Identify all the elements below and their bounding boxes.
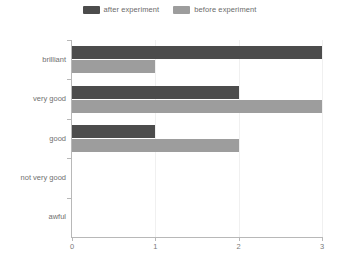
y-axis-label-good: good bbox=[49, 135, 66, 143]
bar-brilliant-before-experiment bbox=[72, 60, 155, 73]
bar-very-good-before-experiment bbox=[72, 100, 322, 113]
gridline bbox=[322, 40, 323, 237]
x-axis-tick bbox=[72, 237, 73, 241]
y-axis-label-awful: awful bbox=[48, 213, 66, 221]
x-axis-tick bbox=[239, 237, 240, 241]
plot-area: brilliantvery goodgoodnot very goodawful… bbox=[0, 0, 339, 265]
gridline bbox=[239, 40, 240, 237]
y-axis-label-not-very-good: not very good bbox=[21, 174, 66, 182]
x-axis-label: 3 bbox=[320, 243, 324, 251]
x-axis-label: 2 bbox=[237, 243, 241, 251]
bar-good-before-experiment bbox=[72, 139, 239, 152]
x-axis-label: 1 bbox=[153, 243, 157, 251]
y-axis-tick bbox=[67, 198, 71, 199]
y-axis-label-brilliant: brilliant bbox=[42, 56, 66, 64]
x-axis-label: 0 bbox=[70, 243, 74, 251]
y-axis-tick bbox=[67, 119, 71, 120]
y-axis-label-very-good: very good bbox=[33, 95, 66, 103]
bar-brilliant-after-experiment bbox=[72, 46, 322, 59]
bar-chart: after experiment before experiment brill… bbox=[0, 0, 339, 265]
x-axis-tick bbox=[322, 237, 323, 241]
bar-good-after-experiment bbox=[72, 125, 155, 138]
y-axis-tick bbox=[67, 79, 71, 80]
bar-very-good-after-experiment bbox=[72, 86, 239, 99]
y-axis-tick bbox=[67, 158, 71, 159]
x-axis-tick bbox=[155, 237, 156, 241]
x-axis-line bbox=[71, 237, 322, 238]
y-axis-tick bbox=[67, 40, 71, 41]
